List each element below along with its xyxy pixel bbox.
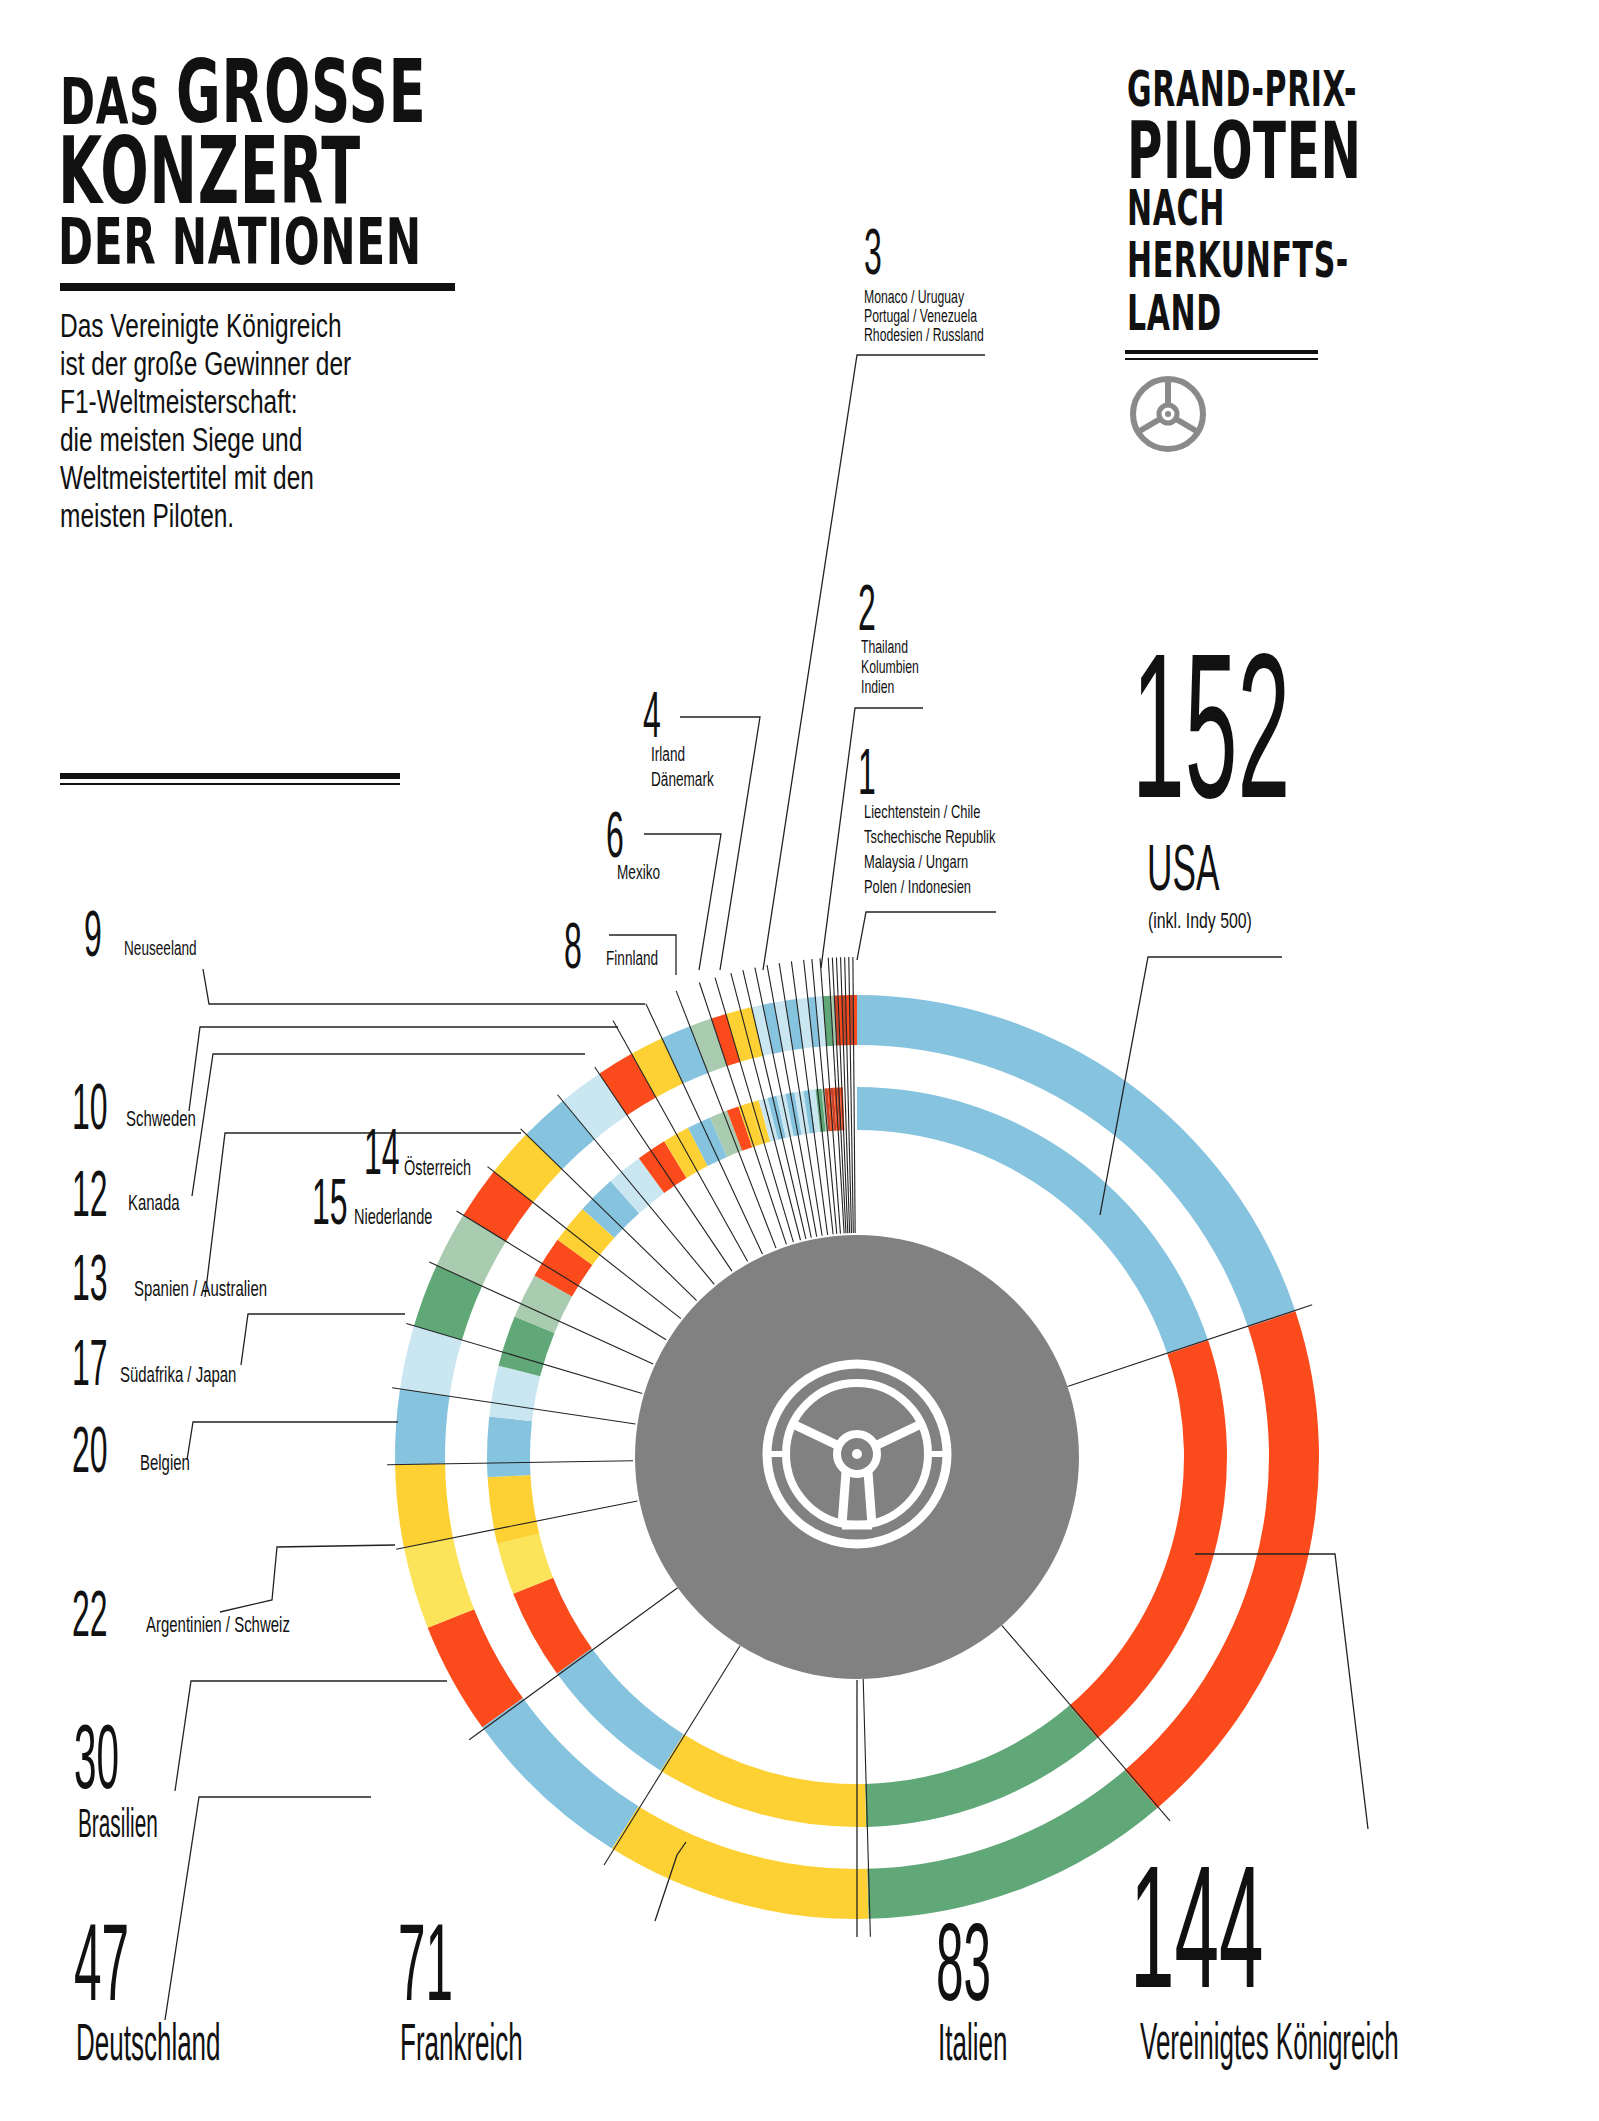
label-name-esp-aus: Spanien / Australien <box>134 1278 267 1300</box>
label-name-mexico: Mexiko <box>617 862 660 882</box>
label-name-belgium: Belgien <box>140 1452 190 1474</box>
label-names-one: Liechtenstein / Chile Tschechische Repub… <box>864 802 1057 902</box>
label-names-two: Thailand Kolumbien Indien <box>861 638 946 698</box>
label-value-nz: 9 <box>84 902 102 966</box>
segment-divider <box>457 1211 667 1340</box>
intro-line: meisten Piloten. <box>60 498 351 536</box>
label-value-arg-sui: 22 <box>72 1582 108 1646</box>
intro-line: F1-Weltmeisterschaft: <box>60 384 351 422</box>
steering-wheel-icon <box>1128 374 1208 454</box>
label-value-canada: 12 <box>72 1162 108 1226</box>
label-name-finland: Finnland <box>606 948 658 968</box>
label-value-brazil: 30 <box>74 1712 119 1802</box>
label-value-one: 1 <box>858 740 876 804</box>
label-value-france: 71 <box>398 1907 453 2017</box>
intro-double-rule-bottom <box>60 783 400 785</box>
intro-line: Das Vereinigte Königreich <box>60 308 351 346</box>
title-nach: NACH <box>1127 183 1225 233</box>
label-value-uk: 144 <box>1130 1840 1264 2014</box>
label-value-belgium: 20 <box>72 1418 108 1482</box>
label-value-esp-aus: 13 <box>72 1246 108 1310</box>
label-line: Tschechische Republik <box>864 827 995 852</box>
label-note-usa: (inkl. Indy 500) <box>1148 910 1252 932</box>
title-rule <box>60 283 455 291</box>
right-title-rule-top <box>1125 350 1318 354</box>
label-value-finland: 8 <box>564 914 582 978</box>
label-line: Kolumbien <box>861 658 919 678</box>
label-line: Thailand <box>861 638 919 658</box>
label-value-germany: 47 <box>74 1907 129 2017</box>
label-name-usa: USA <box>1147 836 1219 900</box>
intro-double-rule-top <box>60 773 400 779</box>
intro-line: Weltmeistertitel mit den <box>60 460 351 498</box>
label-value-four: 4 <box>643 683 661 747</box>
title-herkunfts: HERKUNFTS- <box>1127 235 1349 285</box>
label-name-germany: Deutschland <box>76 2016 221 2068</box>
label-value-usa: 152 <box>1132 623 1290 829</box>
intro-line: die meisten Siege und <box>60 422 351 460</box>
label-line: Irland <box>651 744 714 769</box>
label-value-two: 2 <box>858 576 876 640</box>
label-names-four: Irland Dänemark <box>651 744 743 794</box>
label-line: Portugal / Venezuela <box>864 307 984 326</box>
ring-segment <box>661 1734 866 1827</box>
label-line: Liechtenstein / Chile <box>864 802 995 827</box>
ring-segment <box>865 1706 1097 1827</box>
ring-segment <box>1125 1311 1319 1808</box>
label-name-canada: Kanada <box>128 1192 180 1214</box>
label-line: Rhodesien / Russland <box>864 326 984 345</box>
label-name-brazil: Brasilien <box>78 1803 158 1843</box>
label-value-mexico: 6 <box>606 803 624 867</box>
label-name-nz: Neuseeland <box>124 938 197 958</box>
intro-line: ist der große Gewinner der <box>60 346 351 384</box>
intro-paragraph: Das Vereinigte Königreich ist der große … <box>60 308 464 536</box>
ring-segment <box>1069 1340 1227 1738</box>
right-title-rule-bottom <box>1125 358 1318 360</box>
title-der-nationen: DER NATIONEN <box>58 210 422 274</box>
ring-segment <box>395 1464 453 1548</box>
label-name-austria: Österreich <box>404 1157 471 1179</box>
label-line: Polen / Indonesien <box>864 877 995 902</box>
label-name-uk: Vereinigtes Königreich <box>1140 2015 1399 2067</box>
title-land: LAND <box>1127 288 1222 338</box>
label-name-italy: Italien <box>938 2016 1007 2068</box>
label-name-netherlands: Niederlande <box>354 1206 432 1228</box>
label-value-rsa-jpn: 17 <box>72 1331 108 1395</box>
label-line: Monaco / Uruguay <box>864 288 984 307</box>
label-name-arg-sui: Argentinien / Schweiz <box>146 1614 290 1636</box>
ring-segment <box>488 1475 539 1544</box>
label-value-sweden: 10 <box>72 1075 108 1139</box>
label-name-rsa-jpn: Südafrika / Japan <box>120 1364 236 1386</box>
segment-divider <box>595 1067 732 1271</box>
label-value-netherlands: 15 <box>312 1170 348 1234</box>
ring-segment <box>557 1648 684 1770</box>
ring-segment <box>487 1417 532 1478</box>
label-name-france: Frankreich <box>400 2016 523 2068</box>
label-line: Indien <box>861 678 919 698</box>
label-value-three: 3 <box>864 220 882 284</box>
label-value-italy: 83 <box>936 1907 991 2017</box>
label-line: Malaysia / Ungarn <box>864 852 995 877</box>
label-value-austria: 14 <box>364 1120 400 1184</box>
label-line: Dänemark <box>651 769 714 794</box>
ring-segment <box>395 1389 450 1465</box>
label-names-three: Monaco / Uruguay Portugal / Venezuela Rh… <box>864 288 1040 345</box>
label-name-sweden: Schweden <box>126 1108 196 1130</box>
